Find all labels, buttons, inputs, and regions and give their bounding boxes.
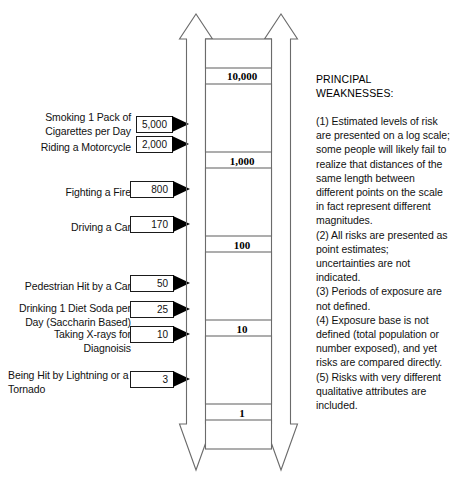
risk-value-box: 50 (130, 275, 174, 292)
risk-value-box: 170 (130, 216, 174, 233)
risk-value-box: 3 (130, 371, 174, 388)
scale-tick-label: 1,000 (178, 155, 306, 167)
notes-body: (1) Estimated levels of risk are present… (316, 114, 450, 412)
risk-label: Taking X-rays for Diagnoisis (8, 328, 131, 355)
risk-label: Being Hit by Lightning or a Tornado (8, 369, 131, 396)
risk-value-box: 2,000 (136, 136, 173, 153)
scale-tick-label: 1 (178, 407, 306, 419)
risk-label: Riding a Motorcycle (8, 141, 131, 155)
principal-weaknesses-panel: PRINCIPAL WEAKNESSES: (1) Estimated leve… (316, 72, 450, 412)
risk-label: Smoking 1 Pack of Cigarettes per Day (8, 111, 131, 138)
risk-label: Driving a Car (8, 221, 131, 235)
risk-label: Pedestrian Hit by a Car (8, 280, 131, 294)
risk-value-box: 5,000 (136, 116, 173, 133)
risk-value-box: 800 (130, 181, 174, 198)
risk-list: Smoking 1 Pack of Cigarettes per Day5,00… (0, 0, 195, 486)
decade-panel-4 (206, 336, 272, 404)
risk-label: Fighting a Fire (8, 186, 131, 200)
risk-value-box: 25 (130, 301, 174, 318)
weakness-note: (4) Exposure base is not defined (total … (316, 313, 450, 370)
scale-tick-label: 100 (178, 239, 306, 251)
scale-tick-label: 10 (178, 323, 306, 335)
decade-panel-3 (206, 252, 272, 320)
decade-panel-2 (206, 168, 272, 236)
weakness-note: (3) Periods of exposure are not defined. (316, 284, 450, 312)
notes-title: PRINCIPAL WEAKNESSES: (316, 72, 450, 100)
risk-label: Drinking 1 Diet Soda per Day (Saccharin … (8, 302, 131, 329)
decade-panel-top (206, 39, 272, 68)
log-scale-column: 10,0001,000100101 (178, 0, 306, 486)
decade-panel-bottom (206, 420, 272, 449)
weakness-note: (2) All risks are presented as point est… (316, 228, 450, 285)
weakness-note: (5) Risks with very different qualitativ… (316, 370, 450, 413)
risk-value-box: 10 (130, 326, 174, 343)
scale-tick-label: 10,000 (178, 70, 306, 82)
weakness-note: (1) Estimated levels of risk are present… (316, 114, 450, 228)
decade-panel-1 (206, 84, 272, 152)
